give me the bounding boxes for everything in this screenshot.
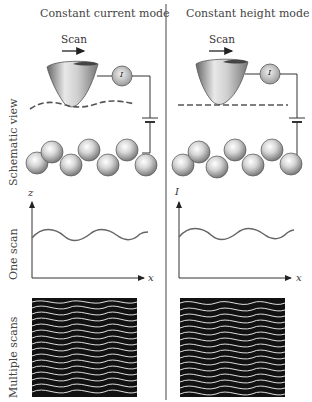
y-axis-label-left: z xyxy=(28,187,33,198)
row-label-schematic: Schematic view xyxy=(7,98,20,186)
meter-label-right: I xyxy=(268,68,271,77)
scan-label-right: Scan xyxy=(209,33,235,45)
atom-row xyxy=(26,139,157,176)
y-axis-label-right: I xyxy=(175,186,179,197)
stm-diagram xyxy=(0,0,312,402)
right-schematic xyxy=(172,51,305,178)
row-label-one-scan: One scan xyxy=(7,228,20,280)
left-one-scan xyxy=(32,202,148,278)
row-label-multiple-scans: Multiple scans xyxy=(7,317,20,398)
scan-trace xyxy=(32,230,148,241)
right-multi-scan xyxy=(180,298,285,397)
tip-icon xyxy=(196,59,248,104)
meter-label-left: I xyxy=(120,70,123,79)
x-axis-label-left: x xyxy=(148,272,154,283)
column-title-right: Constant height mode xyxy=(186,7,310,20)
tip-path-wavy xyxy=(30,101,135,109)
scan-label-left: Scan xyxy=(61,33,87,45)
atom-row xyxy=(172,139,302,178)
right-one-scan xyxy=(179,202,294,278)
left-schematic xyxy=(26,51,158,176)
scan-trace xyxy=(179,229,294,240)
left-multi-scan xyxy=(32,298,137,397)
x-axis-label-right: x xyxy=(296,272,302,283)
tip-icon xyxy=(47,61,98,107)
column-title-left: Constant current mode xyxy=(40,7,170,20)
